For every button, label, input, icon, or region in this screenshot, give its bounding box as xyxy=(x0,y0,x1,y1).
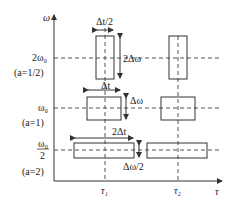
diagram-canvas: ω τ Δt/2 2Δω Δt Δω 2Δt Δω/2 2ω₀ (a=1/2) … xyxy=(0,0,236,207)
tick-tau1: τ₁ xyxy=(101,185,108,196)
freq-label-w0-half-num: ω₀ xyxy=(38,138,49,149)
y-axis-label: ω xyxy=(43,12,50,23)
freq-label-2w0: 2ω₀ xyxy=(32,52,48,63)
wavelet-time-frequency-diagram: ω τ Δt/2 2Δω Δt Δω 2Δt Δω/2 2ω₀ (a=1/2) … xyxy=(0,0,236,207)
tick-tau2: τ₂ xyxy=(174,185,182,196)
height-label-a2: Δω/2 xyxy=(123,161,144,172)
scale-label-a-half: (a=1/2) xyxy=(14,67,44,79)
x-axis-label: τ xyxy=(215,186,219,197)
width-label-a2: 2Δt xyxy=(112,126,126,137)
width-label-a-half: Δt/2 xyxy=(96,16,113,27)
freq-label-w0: ω₀ xyxy=(38,102,49,113)
height-label-a1: Δω xyxy=(130,95,143,106)
freq-label-w0-half-den: 2 xyxy=(40,150,45,161)
height-label-a-half: 2Δω xyxy=(123,53,141,64)
scale-label-a1: (a=1) xyxy=(22,117,44,129)
width-label-a1: Δt xyxy=(101,80,110,91)
scale-label-a2: (a=2) xyxy=(22,166,44,178)
